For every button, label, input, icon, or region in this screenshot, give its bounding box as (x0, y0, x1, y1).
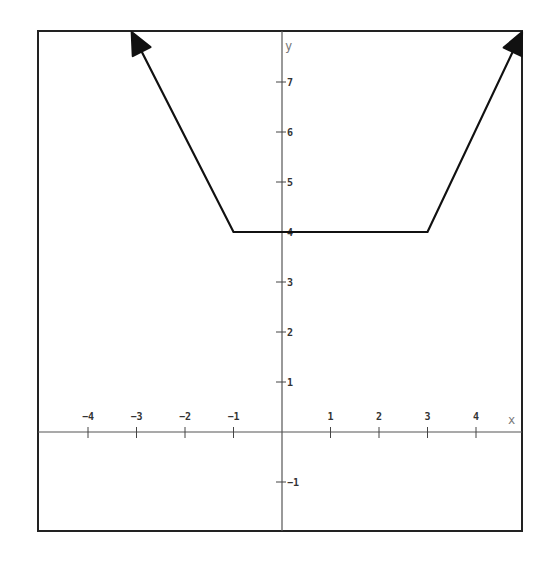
x-tick-label: 4 (473, 411, 479, 422)
curve-line (140, 48, 515, 232)
arrowhead-right-icon (504, 32, 522, 56)
y-tick-label: 3 (287, 277, 293, 288)
x-tick-label: −2 (179, 411, 191, 422)
y-tick-label: 1 (287, 377, 293, 388)
x-tick-label: 3 (424, 411, 430, 422)
y-tick-label: 5 (287, 177, 293, 188)
x-tick-label: −4 (82, 411, 94, 422)
x-tick-label: 2 (376, 411, 382, 422)
x-tick-label: −3 (130, 411, 142, 422)
plot-frame (38, 31, 522, 531)
arrowhead-left-icon (132, 32, 151, 56)
x-axis-label: x (508, 413, 515, 427)
y-tick-label: −1 (287, 477, 299, 488)
y-tick-label: 7 (287, 77, 293, 88)
function-graph: −4−3−2−11234−11234567 x y (0, 0, 549, 563)
function-curve (132, 32, 522, 232)
ticks: −4−3−2−11234−11234567 (82, 77, 479, 488)
y-tick-label: 2 (287, 327, 293, 338)
x-tick-label: −1 (227, 411, 239, 422)
y-axis-label: y (285, 39, 292, 53)
x-tick-label: 1 (327, 411, 333, 422)
y-tick-label: 6 (287, 127, 293, 138)
axes (38, 31, 522, 531)
